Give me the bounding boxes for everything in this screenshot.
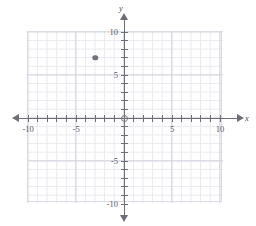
y-axis-arrow-up-icon (120, 13, 128, 20)
x-axis-label: x (245, 114, 249, 123)
y-tick-label: -5 (100, 157, 118, 166)
x-axis-arrow-left-icon (12, 114, 19, 122)
y-axis-tick (121, 195, 128, 196)
x-axis-tick (220, 115, 221, 122)
x-axis-tick (47, 115, 48, 122)
x-axis-tick (104, 115, 105, 122)
y-axis-tick (121, 178, 128, 179)
y-axis-tick (121, 49, 128, 50)
y-tick-label: 5 (100, 71, 118, 80)
y-axis-tick (121, 109, 128, 110)
y-axis-tick (121, 126, 128, 127)
x-axis-tick (143, 115, 144, 122)
y-axis-tick (121, 135, 128, 136)
x-axis-tick (152, 115, 153, 122)
x-axis-tick (56, 115, 57, 122)
y-axis-tick (121, 100, 128, 101)
x-axis-tick (133, 115, 134, 122)
y-axis-tick (121, 75, 128, 76)
x-axis-tick (172, 115, 173, 122)
y-axis-tick (121, 32, 128, 33)
y-axis-tick (121, 186, 128, 187)
x-axis-tick (85, 115, 86, 122)
y-tick-label: 10 (100, 28, 118, 37)
y-axis-label: y (119, 4, 123, 13)
x-axis-tick (66, 115, 67, 122)
x-axis-tick (191, 115, 192, 122)
x-axis-tick (95, 115, 96, 122)
y-axis-tick (121, 161, 128, 162)
y-tick-label: -10 (100, 200, 118, 209)
y-axis-tick (121, 204, 128, 205)
x-axis-tick (37, 115, 38, 122)
x-axis-tick (200, 115, 201, 122)
x-axis-tick (114, 115, 115, 122)
x-axis-tick (162, 115, 163, 122)
origin-marker (121, 115, 128, 122)
y-axis-tick (121, 57, 128, 58)
x-axis-tick (181, 115, 182, 122)
x-axis-tick (28, 115, 29, 122)
y-axis-tick (121, 143, 128, 144)
y-axis-tick (121, 92, 128, 93)
x-tick-label: 10 (216, 125, 225, 134)
x-tick-label: -10 (22, 125, 33, 134)
coordinate-plane-figure: x y -10-5510105-5-10 (0, 0, 256, 226)
y-axis-tick (121, 152, 128, 153)
x-axis-tick (76, 115, 77, 122)
y-axis-tick (121, 169, 128, 170)
x-tick-label: -5 (73, 125, 80, 134)
y-axis-tick (121, 83, 128, 84)
x-axis-arrow-right-icon (237, 114, 244, 122)
y-axis-arrow-down-icon (120, 215, 128, 222)
x-axis-tick (210, 115, 211, 122)
y-axis-tick (121, 66, 128, 67)
y-axis-tick (121, 40, 128, 41)
x-tick-label: 5 (170, 125, 174, 134)
